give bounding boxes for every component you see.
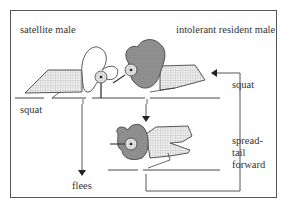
label-flees: flees: [72, 180, 92, 192]
flees-arrow: [78, 104, 86, 176]
label-intolerant-resident-male: intolerant resident male: [176, 24, 275, 36]
down-arrow-center: [142, 104, 150, 122]
label-spread-tail-forward-3: forward: [232, 159, 265, 171]
label-squat-left: squat: [20, 104, 42, 116]
resident-male-figure-top: [113, 40, 205, 92]
resident-male-figure-bottom: [110, 124, 192, 168]
label-satellite-male: satellite male: [20, 24, 76, 36]
label-squat-right: squat: [232, 79, 254, 91]
label-spread-tail-forward-1: spread-: [232, 135, 263, 147]
label-spread-tail-forward-2: tail: [232, 147, 245, 159]
satellite-male-figure: [25, 47, 118, 98]
